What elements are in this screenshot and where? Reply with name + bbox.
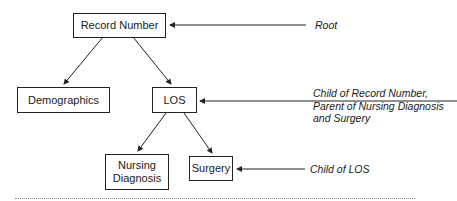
annotation-line2: Parent of Nursing Diagnosis: [313, 100, 444, 113]
annotation-text: Root: [315, 19, 337, 31]
annotation-line3: and Surgery: [313, 112, 444, 125]
edge-los-to-nursing: [138, 113, 166, 151]
node-los: LOS: [152, 87, 197, 113]
dotted-divider: [15, 198, 415, 199]
annotation-los: Child of Record Number, Parent of Nursin…: [313, 87, 444, 125]
node-demographics: Demographics: [17, 87, 110, 113]
node-nursing-diagnosis: Nursing Diagnosis: [105, 154, 169, 190]
annotation-surgery: Child of LOS: [310, 163, 370, 176]
node-label-line1: Nursing: [118, 159, 156, 172]
annotation-root: Root: [315, 19, 337, 32]
node-label: Record Number: [81, 19, 159, 32]
edge-record-to-demographics: [64, 37, 103, 84]
annotation-line1: Child of Record Number,: [313, 87, 444, 100]
edge-los-to-surgery: [184, 113, 212, 153]
node-label: LOS: [163, 94, 185, 107]
node-label-line2: Diagnosis: [113, 172, 161, 185]
node-label: Demographics: [28, 94, 99, 107]
node-record-number: Record Number: [73, 13, 166, 38]
node-label: Surgery: [192, 162, 231, 175]
annotation-text: Child of LOS: [310, 163, 370, 175]
node-surgery: Surgery: [189, 156, 233, 181]
edge-record-to-los: [133, 37, 171, 84]
